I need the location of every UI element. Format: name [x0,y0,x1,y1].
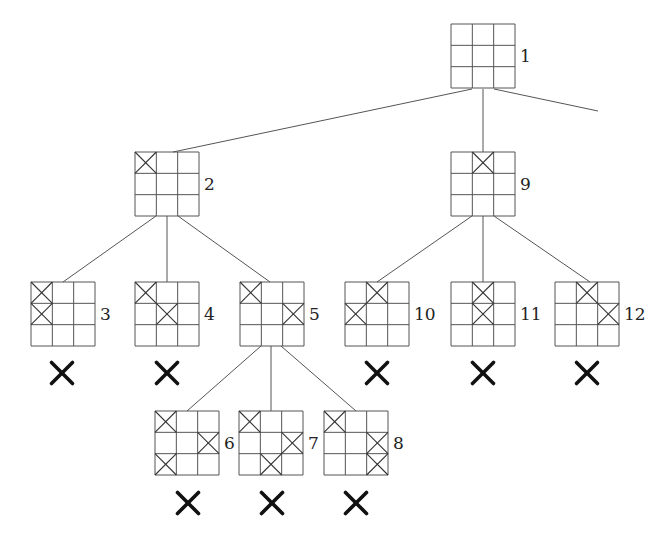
tree-edge [494,216,590,282]
prune-x-icon [577,363,598,384]
board-node: 8 [324,411,404,475]
cell-cross-icon [239,411,260,432]
cell-cross-icon [135,282,156,303]
board-node: 11 [451,282,542,346]
board-label: 9 [520,174,531,194]
prune-x-icon [367,363,388,384]
cell-cross-icon [31,303,52,324]
cell-cross-icon [155,454,176,475]
prune-x-icon [157,363,178,384]
cell-cross-icon [472,152,493,173]
board-node: 7 [239,411,319,475]
cell-cross-icon [260,454,281,475]
board-label: 4 [204,304,215,324]
board-label: 5 [309,304,320,324]
board-label: 11 [520,304,542,324]
cell-cross-icon [367,432,388,453]
board-node: 10 [345,282,436,346]
board-label: 1 [520,46,531,66]
tree-edge [494,89,598,111]
tree-edge [63,216,156,282]
cell-cross-icon [198,432,219,453]
board-label: 3 [100,304,111,324]
prune-x-icon [473,363,494,384]
board-node: 3 [31,282,111,346]
cell-cross-icon [345,303,366,324]
cell-cross-icon [472,282,493,303]
cell-cross-icon [324,411,345,432]
cell-cross-icon [576,282,597,303]
cell-cross-icon [598,303,619,324]
board-node: 2 [135,152,215,216]
board-label: 6 [224,433,235,453]
board-node: 9 [451,152,531,216]
prune-x-icon [52,363,73,384]
board-node: 12 [555,282,646,346]
board-label: 8 [393,433,404,453]
cell-cross-icon [135,152,156,173]
game-tree-diagram: 123456789101112 [0,0,670,539]
tree-nodes: 123456789101112 [31,24,646,475]
prune-x-icon [262,493,283,514]
cell-cross-icon [240,282,261,303]
tree-edge [377,216,472,282]
cell-cross-icon [282,432,303,453]
board-node: 4 [135,282,215,346]
tree-edges [63,89,598,411]
board-label: 10 [414,304,436,324]
board-node: 6 [155,411,235,475]
board-label: 7 [308,433,319,453]
cell-cross-icon [156,303,177,324]
cell-cross-icon [31,282,52,303]
cell-cross-icon [283,303,304,324]
cell-cross-icon [155,411,176,432]
prune-x-icon [346,493,367,514]
board-label: 12 [624,304,646,324]
tree-edge [281,346,356,411]
board-node: 5 [240,282,320,346]
cell-cross-icon [472,303,493,324]
tree-edge [178,216,270,282]
prune-x-icon [178,493,199,514]
cell-cross-icon [366,282,387,303]
board-node: 1 [451,24,531,88]
tree-edge [173,89,472,152]
tree-edge [187,346,261,411]
board-label: 2 [204,174,215,194]
cell-cross-icon [367,454,388,475]
